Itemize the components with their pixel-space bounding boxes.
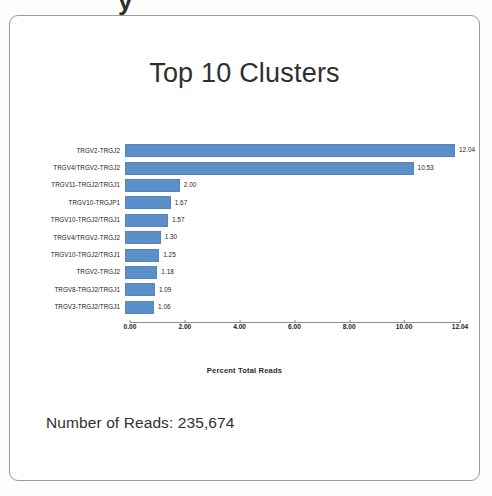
bar-value-label: 1.67 xyxy=(175,200,187,206)
bar-category-label: TRGV4/TRGV2-TRGJ2 xyxy=(30,235,125,241)
bar xyxy=(125,179,180,192)
bar-category-label: TRGV10-TRGJ2/TRGJ1 xyxy=(30,252,125,258)
bar-track: 1.57 xyxy=(125,212,470,229)
bar-value-label: 1.09 xyxy=(159,287,171,293)
chart-title: Top 10 Clusters xyxy=(10,58,479,89)
bar-category-label: TRGV10-TRGJP1 xyxy=(30,200,125,206)
bar-category-label: TRGV4/TRGV2-TRGJ2 xyxy=(30,165,125,171)
bar-value-label: 12.04 xyxy=(459,147,475,153)
bar-row: TRGV10-TRGJP11.67 xyxy=(30,194,470,211)
bar-track: 10.53 xyxy=(125,159,470,176)
x-axis-tick-label: 0.00 xyxy=(124,323,137,330)
bar-category-label: TRGV8-TRGJ2/TRGJ1 xyxy=(30,287,125,293)
bar-category-label: TRGV2-TRGJ2 xyxy=(30,269,125,275)
bar-row: TRGV10-TRGJ2/TRGJ11.25 xyxy=(30,246,470,263)
bar xyxy=(125,249,159,262)
bar-track: 1.30 xyxy=(125,229,470,246)
scanned-page: y Top 10 Clusters TRGV2-TRGJ212.04TRGV4/… xyxy=(0,0,492,496)
figure-frame: Top 10 Clusters TRGV2-TRGJ212.04TRGV4/TR… xyxy=(9,15,480,481)
bar-value-label: 1.06 xyxy=(158,304,170,310)
bar-track: 1.25 xyxy=(125,246,470,263)
bar-category-label: TRGV2-TRGJ2 xyxy=(30,148,125,154)
bar-row: TRGV4/TRGV2-TRGJ210.53 xyxy=(30,159,470,176)
bar-track: 2.00 xyxy=(125,177,470,194)
x-axis-tick-label: 2.00 xyxy=(178,323,191,330)
number-of-reads-text: Number of Reads: 235,674 xyxy=(46,414,235,432)
bar-value-label: 1.30 xyxy=(165,234,177,240)
bar-row: TRGV8-TRGJ2/TRGJ11.09 xyxy=(30,281,470,298)
x-axis-title: Percent Total Reads xyxy=(10,366,479,375)
bar-value-label: 1.18 xyxy=(161,269,173,275)
x-axis-ticks: 0.002.004.006.008.0010.0012.04 xyxy=(130,323,460,337)
bar-row: TRGV4/TRGV2-TRGJ21.30 xyxy=(30,229,470,246)
x-axis-tick-label: 8.00 xyxy=(343,323,356,330)
bar-track: 12.04 xyxy=(125,142,475,159)
bar-track: 1.09 xyxy=(125,281,470,298)
bar-value-label: 2.00 xyxy=(184,182,196,188)
bar xyxy=(125,266,157,279)
bar-category-label: TRGV11-TRGJ2/TRGJ1 xyxy=(30,182,125,188)
bar-chart-plot-area: TRGV2-TRGJ212.04TRGV4/TRGV2-TRGJ210.53TR… xyxy=(30,136,470,341)
bar-row: TRGV3-TRGJ2/TRGJ11.06 xyxy=(30,299,470,316)
x-axis-tick-label: 12.04 xyxy=(452,323,469,330)
bar xyxy=(125,214,168,227)
bar-category-label: TRGV3-TRGJ2/TRGJ1 xyxy=(30,304,125,310)
bar-track: 1.67 xyxy=(125,194,470,211)
bar-value-label: 10.53 xyxy=(418,165,434,171)
bar-category-label: TRGV10-TRGJ2/TRGJ1 xyxy=(30,217,125,223)
bar xyxy=(125,162,414,175)
bar xyxy=(125,144,455,157)
x-axis-tick-label: 6.00 xyxy=(288,323,301,330)
bar-track: 1.06 xyxy=(125,299,470,316)
bar-value-label: 1.57 xyxy=(172,217,184,223)
x-axis-tick-label: 4.00 xyxy=(233,323,246,330)
bar-rows: TRGV2-TRGJ212.04TRGV4/TRGV2-TRGJ210.53TR… xyxy=(30,142,470,316)
bar-row: TRGV2-TRGJ21.18 xyxy=(30,264,470,281)
bar-row: TRGV10-TRGJ2/TRGJ11.57 xyxy=(30,212,470,229)
bar-track: 1.18 xyxy=(125,264,470,281)
bar xyxy=(125,196,171,209)
bar-value-label: 1.25 xyxy=(163,252,175,258)
bar xyxy=(125,231,161,244)
x-axis-tick-label: 10.00 xyxy=(396,323,413,330)
bar xyxy=(125,283,155,296)
bar-row: TRGV2-TRGJ212.04 xyxy=(30,142,470,159)
bar-row: TRGV11-TRGJ2/TRGJ12.00 xyxy=(30,177,470,194)
bar xyxy=(125,301,154,314)
